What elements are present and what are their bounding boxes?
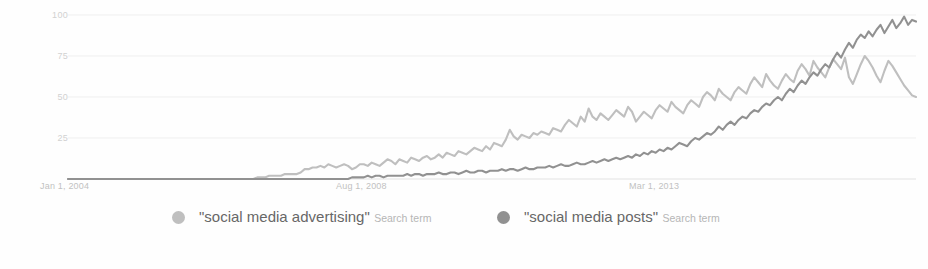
series-line-social-media-posts: [68, 17, 916, 179]
y-tick-25: 25: [34, 133, 68, 143]
x-axis-labels: Jan 1, 2004 Aug 1, 2008 Mar 1, 2013: [0, 181, 928, 197]
legend-color-dot-icon: [497, 211, 510, 224]
chart-plot-area[interactable]: 100 75 50 25 Jan 1, 2004 Aug 1, 2008 Mar…: [0, 0, 928, 190]
legend-sublabel: Search term: [374, 212, 431, 224]
y-tick-75: 75: [34, 51, 68, 61]
legend-term-label: "social media advertising": [199, 208, 370, 225]
legend-item-texts: "social media posts" Search term: [524, 208, 720, 226]
google-trends-chart-widget: 100 75 50 25 Jan 1, 2004 Aug 1, 2008 Mar…: [0, 0, 928, 269]
trends-line-chart-svg: [0, 0, 928, 190]
x-tick-jan-2004: Jan 1, 2004: [40, 181, 89, 191]
chart-legend: "social media advertising" Search term "…: [0, 204, 928, 260]
legend-color-dot-icon: [172, 211, 185, 224]
series-line-social-media-advertising: [68, 56, 916, 179]
y-axis-labels: 100 75 50 25: [30, 0, 68, 190]
y-tick-50: 50: [34, 92, 68, 102]
legend-item-texts: "social media advertising" Search term: [199, 208, 431, 226]
x-tick-mar-2013: Mar 1, 2013: [629, 181, 679, 191]
legend-sublabel: Search term: [663, 212, 720, 224]
y-tick-100: 100: [34, 10, 68, 20]
x-tick-aug-2008: Aug 1, 2008: [336, 181, 387, 191]
legend-term-label: "social media posts": [524, 208, 658, 225]
legend-item-social-media-posts[interactable]: "social media posts" Search term: [497, 208, 720, 226]
gridlines-group: [68, 15, 916, 179]
legend-item-social-media-advertising[interactable]: "social media advertising" Search term: [172, 208, 431, 226]
